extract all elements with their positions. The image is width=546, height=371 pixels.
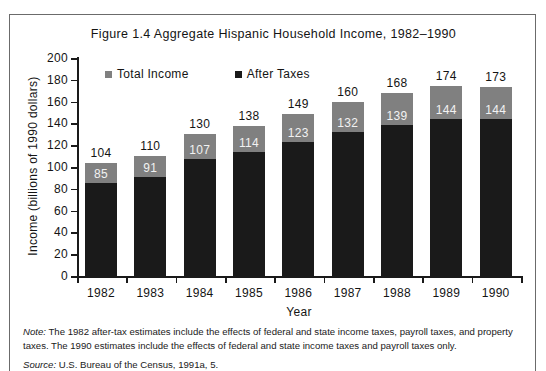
bar-label-total-income: 174 bbox=[430, 69, 462, 83]
y-axis-tick-label: 180 bbox=[34, 73, 68, 87]
bar-label-total-income: 110 bbox=[134, 139, 166, 153]
bar-label-after-taxes: 91 bbox=[134, 161, 166, 175]
y-axis-tick-label: 160 bbox=[34, 95, 68, 109]
bar-group[interactable]: 174144 bbox=[430, 58, 462, 276]
bar-label-total-income: 130 bbox=[184, 117, 216, 131]
bar-label-after-taxes: 107 bbox=[184, 143, 216, 157]
note-line: Note: The 1982 after-tax estimates inclu… bbox=[23, 325, 523, 352]
bar-label-total-income: 149 bbox=[282, 97, 314, 111]
y-axis-tick-label: 40 bbox=[34, 225, 68, 239]
bar-label-total-income: 168 bbox=[381, 76, 413, 90]
x-axis-tick bbox=[521, 276, 523, 283]
x-axis-line bbox=[77, 276, 521, 278]
bar-segment-after-taxes[interactable] bbox=[233, 152, 265, 276]
bar-label-after-taxes: 144 bbox=[430, 103, 462, 117]
bar-group[interactable]: 160132 bbox=[332, 58, 364, 276]
bar-segment-after-taxes[interactable] bbox=[184, 159, 216, 276]
bar-segment-after-taxes[interactable] bbox=[332, 132, 364, 276]
x-axis-tick-label: 1990 bbox=[466, 286, 526, 300]
source-line: Source: U.S. Bureau of the Census, 1991a… bbox=[23, 358, 523, 371]
x-axis-title: Year bbox=[77, 305, 521, 319]
y-axis-tick-label: 80 bbox=[34, 182, 68, 196]
bar-segment-after-taxes[interactable] bbox=[134, 177, 166, 276]
x-axis-tick bbox=[422, 276, 424, 283]
figure-footnotes: Note: The 1982 after-tax estimates inclu… bbox=[23, 325, 523, 371]
y-axis-tick-label: 100 bbox=[34, 160, 68, 174]
bar-segment-after-taxes[interactable] bbox=[282, 142, 314, 276]
x-axis-tick bbox=[176, 276, 178, 283]
chart-title: Figure 1.4 Aggregate Hispanic Household … bbox=[10, 27, 537, 41]
x-axis-tick bbox=[324, 276, 326, 283]
bar-label-total-income: 104 bbox=[85, 146, 117, 160]
bar-group[interactable]: 173144 bbox=[480, 58, 512, 276]
source-text: U.S. Bureau of the Census, 1991a, 5. bbox=[56, 359, 218, 370]
y-axis-tick-label: 0 bbox=[34, 269, 68, 283]
x-axis-tick bbox=[472, 276, 474, 283]
bar-group[interactable]: 168139 bbox=[381, 58, 413, 276]
y-axis-tick-label: 200 bbox=[34, 51, 68, 65]
x-axis-tick bbox=[77, 276, 79, 283]
bar-group[interactable]: 149123 bbox=[282, 58, 314, 276]
bar-group[interactable]: 11091 bbox=[134, 58, 166, 276]
bar-segment-after-taxes[interactable] bbox=[85, 183, 117, 276]
bar-label-total-income: 138 bbox=[233, 109, 265, 123]
bar-segment-after-taxes[interactable] bbox=[381, 125, 413, 277]
bar-group[interactable]: 10485 bbox=[85, 58, 117, 276]
figure-frame: Figure 1.4 Aggregate Hispanic Household … bbox=[9, 14, 536, 371]
bar-label-after-taxes: 139 bbox=[381, 109, 413, 123]
y-axis-tick-label: 120 bbox=[34, 138, 68, 152]
y-axis-tick-label: 140 bbox=[34, 116, 68, 130]
bar-label-after-taxes: 114 bbox=[233, 136, 265, 150]
note-text: The 1982 after-tax estimates include the… bbox=[23, 326, 513, 351]
bar-segment-after-taxes[interactable] bbox=[480, 119, 512, 276]
bar-group[interactable]: 130107 bbox=[184, 58, 216, 276]
x-axis-tick bbox=[274, 276, 276, 283]
x-axis-tick bbox=[126, 276, 128, 283]
x-axis-tick bbox=[373, 276, 375, 283]
plot-area: 1048511091130107138114149123160132168139… bbox=[77, 58, 521, 276]
source-prefix: Source: bbox=[23, 359, 56, 370]
bar-label-after-taxes: 144 bbox=[480, 103, 512, 117]
bar-group[interactable]: 138114 bbox=[233, 58, 265, 276]
bar-label-after-taxes: 123 bbox=[282, 126, 314, 140]
x-axis-tick bbox=[225, 276, 227, 283]
bar-label-after-taxes: 85 bbox=[85, 167, 117, 181]
bar-label-total-income: 160 bbox=[332, 85, 364, 99]
y-axis-tick-label: 60 bbox=[34, 204, 68, 218]
bar-label-after-taxes: 132 bbox=[332, 116, 364, 130]
note-prefix: Note: bbox=[23, 326, 46, 337]
bar-segment-after-taxes[interactable] bbox=[430, 119, 462, 276]
bar-label-total-income: 173 bbox=[480, 70, 512, 84]
y-axis-tick-label: 20 bbox=[34, 247, 68, 261]
